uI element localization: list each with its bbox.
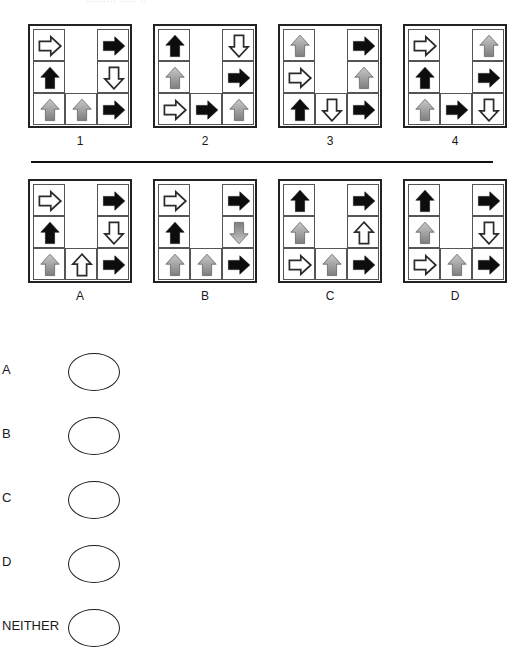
figure-panel-b[interactable] <box>153 179 257 283</box>
arrow-right-white-icon <box>409 30 441 62</box>
grid-cell-bot-right <box>347 248 379 280</box>
section-divider <box>31 161 493 163</box>
grid-cell-mid-right <box>472 216 504 248</box>
arrow-right-black-icon <box>473 185 505 217</box>
grid-cell-top-left <box>408 29 440 61</box>
figure-label-b: B <box>153 289 257 303</box>
figure-slot-b[interactable]: B <box>153 179 263 283</box>
arrow-up-gray-icon <box>191 249 223 281</box>
arrow-down-white-icon <box>473 94 505 126</box>
answer-bubble-d[interactable] <box>68 545 120 583</box>
figure-slot-a[interactable]: A <box>28 179 138 283</box>
answer-bubble-a[interactable] <box>68 353 120 391</box>
figure-label-c: C <box>278 289 382 303</box>
arrow-right-black-icon <box>98 30 130 62</box>
figure-label-d: D <box>403 289 507 303</box>
figure-panel-a[interactable] <box>28 179 132 283</box>
grid-cell-mid-left <box>158 216 190 248</box>
arrow-up-white-icon <box>66 249 98 281</box>
grid-cell-top-right <box>222 184 254 216</box>
answer-option-label-c: C <box>2 490 11 505</box>
grid-cell-mid-left <box>283 216 315 248</box>
arrow-right-white-icon <box>284 249 316 281</box>
answer-bubble-c[interactable] <box>68 481 120 519</box>
figure-label-4: 4 <box>403 134 507 148</box>
grid-cell-bot-left <box>33 248 65 280</box>
arrow-up-white-icon <box>348 217 380 249</box>
grid-cell-top-center <box>315 184 347 216</box>
grid-cell-bot-left <box>283 93 315 125</box>
arrow-up-gray-icon <box>409 217 441 249</box>
arrow-up-gray-icon <box>473 30 505 62</box>
arrow-up-gray-icon <box>409 94 441 126</box>
arrow-up-black-icon <box>409 185 441 217</box>
grid-cell-bot-center <box>65 93 97 125</box>
grid-cell-bot-right <box>97 248 129 280</box>
figure-grid <box>158 184 254 280</box>
grid-cell-mid-right <box>347 61 379 93</box>
grid-cell-bot-center <box>190 248 222 280</box>
arrow-up-gray-icon <box>159 249 191 281</box>
grid-cell-top-right <box>347 184 379 216</box>
grid-cell-bot-center <box>65 248 97 280</box>
grid-cell-mid-right <box>97 216 129 248</box>
figure-label-2: 2 <box>153 134 257 148</box>
figure-slot-d[interactable]: D <box>403 179 513 283</box>
grid-cell-top-right <box>347 29 379 61</box>
grid-cell-mid-center <box>65 61 97 93</box>
grid-cell-bot-right <box>222 248 254 280</box>
grid-cell-top-right <box>97 184 129 216</box>
grid-cell-mid-center <box>190 61 222 93</box>
arrow-right-black-icon <box>473 62 505 94</box>
answer-option-a[interactable]: A <box>0 348 200 396</box>
figure-grid <box>33 184 129 280</box>
figure-slot-c[interactable]: C <box>278 179 388 283</box>
answer-option-label-neither: NEITHER <box>2 618 59 633</box>
arrow-right-black-icon <box>348 185 380 217</box>
figure-label-1: 1 <box>28 134 132 148</box>
arrow-right-black-icon <box>348 249 380 281</box>
grid-cell-top-left <box>33 184 65 216</box>
answer-option-neither[interactable]: NEITHER <box>0 604 200 652</box>
arrow-right-white-icon <box>34 30 66 62</box>
figure-slot-1: 1 <box>28 24 138 128</box>
answer-option-b[interactable]: B <box>0 412 200 460</box>
figure-slot-3: 3 <box>278 24 388 128</box>
grid-cell-mid-left <box>33 216 65 248</box>
figure-grid <box>33 29 129 125</box>
option-figures-row: ABCD <box>0 179 525 309</box>
figure-panel-c[interactable] <box>278 179 382 283</box>
arrow-up-gray-icon <box>159 62 191 94</box>
arrow-up-gray-icon <box>34 94 66 126</box>
answer-bubble-neither[interactable] <box>68 609 120 647</box>
grid-cell-top-center <box>440 29 472 61</box>
arrow-up-black-icon <box>34 62 66 94</box>
grid-cell-mid-center <box>440 61 472 93</box>
answer-option-label-d: D <box>2 554 11 569</box>
grid-cell-top-right <box>222 29 254 61</box>
grid-cell-mid-left <box>283 61 315 93</box>
grid-cell-top-right <box>472 184 504 216</box>
answer-option-c[interactable]: C <box>0 476 200 524</box>
figure-panel-3 <box>278 24 382 128</box>
arrow-down-white-icon <box>316 94 348 126</box>
arrow-right-black-icon <box>191 94 223 126</box>
grid-cell-top-right <box>472 29 504 61</box>
arrow-right-white-icon <box>409 249 441 281</box>
grid-cell-bot-left <box>408 93 440 125</box>
grid-cell-top-left <box>283 29 315 61</box>
arrow-up-gray-icon <box>284 217 316 249</box>
grid-cell-mid-right <box>222 216 254 248</box>
answer-bubble-b[interactable] <box>68 417 120 455</box>
arrow-up-black-icon <box>34 217 66 249</box>
answer-option-label-a: A <box>2 362 11 377</box>
figure-slot-4: 4 <box>403 24 513 128</box>
arrow-up-black-icon <box>284 94 316 126</box>
arrow-right-black-icon <box>98 249 130 281</box>
figure-panel-d[interactable] <box>403 179 507 283</box>
answer-option-label-b: B <box>2 426 11 441</box>
grid-cell-mid-right <box>472 61 504 93</box>
grid-cell-top-center <box>65 29 97 61</box>
figure-panel-4 <box>403 24 507 128</box>
answer-option-d[interactable]: D <box>0 540 200 588</box>
